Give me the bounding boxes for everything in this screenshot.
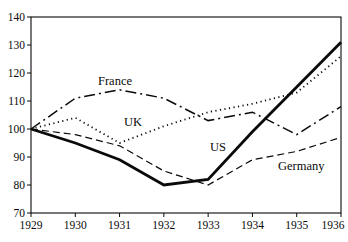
y-axis-tick-label: 130 bbox=[8, 39, 26, 51]
y-axis-tick-label: 140 bbox=[8, 11, 26, 23]
series-label-france: France bbox=[98, 74, 132, 88]
series-line-germany bbox=[31, 129, 341, 185]
chart-canvas: 7080901001101201301401929193019311932193… bbox=[0, 0, 348, 242]
series-line-france bbox=[31, 90, 341, 135]
series-label-uk: UK bbox=[124, 115, 142, 129]
x-axis-tick-label: 1929 bbox=[20, 219, 43, 231]
x-axis-tick-label: 1932 bbox=[152, 219, 175, 231]
y-axis-tick-label: 120 bbox=[8, 67, 26, 79]
x-axis-tick-label: 1931 bbox=[108, 219, 131, 231]
series-label-germany: Germany bbox=[278, 159, 325, 173]
line-chart: 7080901001101201301401929193019311932193… bbox=[0, 0, 348, 242]
x-axis-tick-label: 1930 bbox=[64, 219, 87, 231]
y-axis-tick-label: 100 bbox=[8, 123, 26, 135]
series-line-uk bbox=[31, 56, 341, 143]
x-axis-tick-label: 1935 bbox=[285, 219, 308, 231]
y-axis-tick-label: 70 bbox=[14, 207, 26, 219]
x-axis-tick-label: 1936 bbox=[322, 219, 345, 231]
x-axis-tick-label: 1933 bbox=[197, 219, 220, 231]
series-label-us: US bbox=[210, 140, 226, 154]
y-axis-tick-label: 90 bbox=[14, 151, 26, 163]
x-axis-tick-label: 1934 bbox=[241, 219, 264, 231]
y-axis-tick-label: 80 bbox=[14, 179, 26, 191]
y-axis-tick-label: 110 bbox=[8, 95, 25, 107]
